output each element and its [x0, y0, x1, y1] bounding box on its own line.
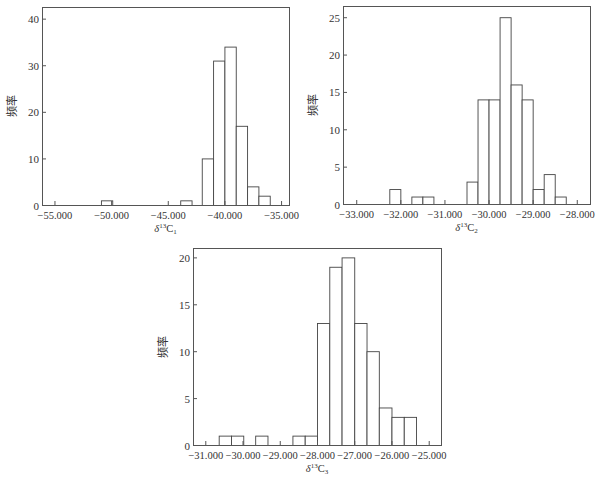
x-tick-label: −29.000 — [263, 450, 298, 461]
histogram-c3: 05101520−31.000−30.000−29.000−28.000−27.… — [156, 249, 447, 477]
histogram-bar — [478, 100, 489, 205]
x-axis-label: δ13C3 — [306, 462, 329, 476]
histogram-bar — [390, 190, 401, 205]
y-tick-label: 20 — [329, 49, 341, 61]
histogram-bar — [101, 201, 112, 206]
x-axis-label: δ13C1 — [154, 222, 177, 236]
histogram-bar — [423, 197, 434, 204]
histogram-bar — [219, 436, 231, 445]
charts-canvas: 010203040−55.000−50.000−45.000−40.000−35… — [0, 0, 596, 486]
histogram-bar — [367, 352, 379, 446]
histogram-bar — [293, 436, 305, 445]
histogram-bar — [236, 126, 247, 205]
histogram-bar — [467, 182, 478, 204]
histogram-bar — [248, 187, 259, 206]
histogram-bar — [379, 408, 392, 446]
x-tick-label: −33.000 — [339, 209, 374, 220]
histogram-c1: 010203040−55.000−50.000−45.000−40.000−35… — [5, 8, 299, 237]
x-tick-label: −55.000 — [38, 210, 73, 221]
x-tick-label: −40.000 — [208, 210, 243, 221]
y-axis-label: 频率 — [5, 95, 18, 117]
x-tick-label: −28.000 — [300, 450, 335, 461]
x-tick-label: −25.000 — [412, 450, 447, 461]
histogram-bar — [392, 417, 404, 445]
x-tick-label: −45.000 — [151, 210, 186, 221]
y-tick-label: 10 — [329, 124, 341, 136]
x-tick-label: −50.000 — [94, 210, 129, 221]
y-tick-label: 25 — [329, 12, 341, 24]
y-tick-label: 15 — [179, 299, 191, 311]
histogram-bar — [342, 258, 355, 446]
histogram-bar — [522, 100, 533, 205]
histogram-bar — [256, 436, 268, 445]
histogram-c2: 0510152025−33.000−32.000−31.000−30.000−2… — [306, 7, 595, 236]
x-tick-label: −27.000 — [337, 450, 372, 461]
bars — [390, 18, 566, 205]
histogram-bar — [489, 100, 500, 205]
histogram-bar — [500, 18, 511, 205]
x-tick-label: −32.000 — [383, 209, 418, 220]
x-tick-label: −31.000 — [428, 209, 463, 220]
bars — [219, 258, 416, 446]
x-tick-label: −29.000 — [516, 209, 551, 220]
y-tick-label: 5 — [335, 161, 341, 173]
plot-frame — [43, 8, 290, 206]
y-tick-label: 10 — [28, 153, 40, 165]
x-tick-label: −30.000 — [472, 209, 507, 220]
y-tick-label: 20 — [28, 106, 40, 118]
y-axis-label: 频率 — [156, 336, 169, 358]
y-tick-label: 20 — [179, 252, 191, 264]
histogram-bar — [181, 201, 192, 206]
histogram-bar — [214, 61, 225, 205]
histogram-bar — [412, 197, 423, 204]
y-tick-label: 15 — [329, 86, 341, 98]
histogram-bar — [305, 436, 317, 445]
bars — [101, 47, 270, 205]
histogram-bar — [555, 197, 566, 204]
histogram-bar — [225, 47, 236, 205]
histogram-bar — [544, 175, 555, 205]
histogram-bar — [231, 436, 243, 445]
histogram-bar — [202, 159, 213, 206]
histogram-bar — [404, 417, 416, 445]
histogram-bar — [330, 267, 342, 445]
y-tick-label: 5 — [185, 393, 191, 405]
y-tick-label: 10 — [179, 346, 191, 358]
x-axis-label: δ13C2 — [455, 221, 478, 235]
y-axis-label: 频率 — [306, 94, 319, 116]
histogram-bar — [355, 324, 367, 446]
histogram-bar — [511, 85, 522, 205]
x-tick-label: −35.000 — [264, 210, 299, 221]
histogram-bar — [533, 190, 544, 205]
x-tick-label: −26.000 — [375, 450, 410, 461]
y-tick-label: 40 — [28, 13, 40, 25]
x-tick-label: −31.000 — [188, 450, 223, 461]
x-tick-label: −28.000 — [560, 209, 595, 220]
y-tick-label: 30 — [28, 60, 40, 72]
x-tick-label: −30.000 — [226, 450, 261, 461]
histogram-bar — [259, 196, 270, 205]
histogram-bar — [318, 324, 330, 446]
